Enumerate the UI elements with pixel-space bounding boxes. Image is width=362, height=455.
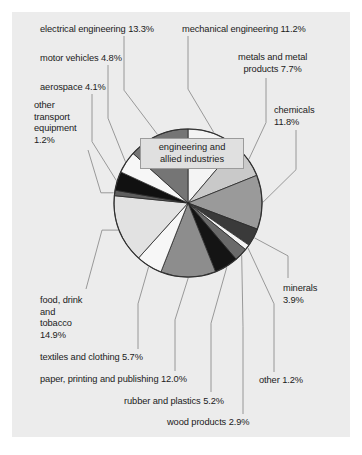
leader-line	[92, 94, 116, 181]
label-minerals: minerals 3.9%	[283, 283, 317, 306]
leader-line	[86, 230, 118, 289]
leader-line	[124, 36, 158, 135]
leader-line	[263, 130, 296, 202]
label-textiles-and-clothing: textiles and clothing 5.7%	[40, 352, 143, 364]
pie-chart-canvas	[0, 0, 362, 455]
label-mechanical-engineering: mechanical engineering 11.2%	[182, 24, 306, 36]
center-callout-engineering-and-allied-industries: engineering and allied industries	[140, 138, 244, 169]
label-wood-products: wood products 2.9%	[167, 417, 249, 429]
label-motor-vehicles: motor vehicles 4.8%	[40, 53, 122, 65]
leader-line	[211, 267, 227, 392]
label-chemicals: chemicals 11.8%	[274, 105, 314, 128]
leader-line	[138, 267, 149, 349]
leader-line	[175, 278, 188, 371]
label-other: other 1.2%	[259, 375, 303, 387]
leader-line	[248, 248, 274, 372]
leader-line	[108, 65, 125, 162]
leader-line	[188, 36, 214, 133]
leader-line	[242, 255, 243, 414]
label-food-drink-and-tobacco: food, drink and tobacco 14.9%	[40, 295, 82, 341]
leader-line	[249, 78, 266, 159]
label-other-transport-equipment: other transport equipment 1.2%	[34, 100, 77, 146]
label-paper-printing-and-publishing: paper, printing and publishing 12.0%	[40, 374, 187, 386]
label-electrical-engineering: electrical engineering 13.3%	[40, 24, 154, 36]
label-metals-and-metal-products: metals and metal products 7.7%	[238, 52, 307, 75]
label-rubber-and-plastics: rubber and plastics 5.2%	[124, 396, 224, 408]
label-aerospace: aerospace 4.1%	[40, 82, 106, 94]
